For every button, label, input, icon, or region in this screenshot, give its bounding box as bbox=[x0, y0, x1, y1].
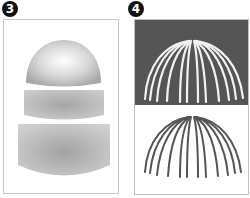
panel-dome-ribs bbox=[134, 19, 249, 195]
step-3-badge: 3 bbox=[2, 1, 18, 17]
middle-band bbox=[24, 90, 104, 120]
exploded-dome-illustration bbox=[4, 20, 120, 195]
bottom-cylinder bbox=[18, 124, 110, 176]
step-4-badge: 4 bbox=[128, 1, 144, 17]
dark-ribs-illustration bbox=[135, 105, 250, 194]
hemisphere-cap bbox=[26, 40, 101, 87]
ribs-dark-view bbox=[135, 20, 248, 105]
panel-exploded-dome bbox=[3, 19, 119, 194]
white-ribs-illustration bbox=[135, 20, 250, 105]
ribs-light-view bbox=[135, 105, 248, 194]
